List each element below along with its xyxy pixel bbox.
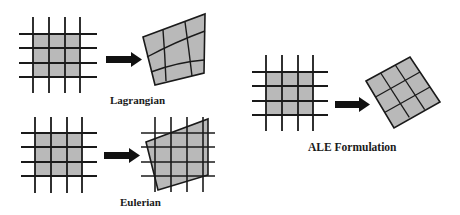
- lagrangian-label: Lagrangian: [110, 94, 165, 106]
- eulerian-initial-grid: [21, 117, 97, 193]
- arrow-icon: [106, 52, 142, 67]
- eulerian-fixed-grid-with-body: [141, 117, 215, 192]
- ale-rotated-mesh: [366, 57, 440, 128]
- arrow-icon: [335, 97, 370, 112]
- ale-formulation-label: ALE Formulation: [308, 141, 397, 153]
- arrow-icon: [104, 148, 140, 163]
- mesh-formulation-diagram: Lagrangian Eule: [0, 0, 460, 215]
- ale-initial-grid: [252, 55, 328, 131]
- eulerian-label: Eulerian: [120, 196, 161, 208]
- lagrangian-initial-grid: [19, 17, 97, 93]
- lagrangian-deformed-mesh: [143, 14, 205, 85]
